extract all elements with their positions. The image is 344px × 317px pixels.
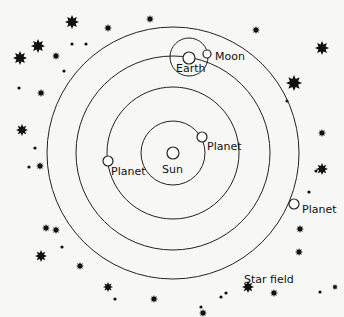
star-dot-icon xyxy=(318,290,321,293)
moon-label: Moon xyxy=(215,50,245,63)
star-icon xyxy=(37,89,45,97)
planet-label: Planet xyxy=(302,203,337,216)
star-icon xyxy=(65,15,79,29)
solar-system-diagram: Sun Earth Moon Planet Planet Planet Star… xyxy=(0,0,344,317)
star-dot-icon xyxy=(84,42,87,45)
star-dot-icon xyxy=(224,291,227,294)
star-field-label: Star field xyxy=(244,273,294,286)
star-icon xyxy=(316,163,328,175)
star-icon xyxy=(31,39,45,53)
star-icon xyxy=(16,124,28,136)
earth-label: Earth xyxy=(176,62,206,75)
star-dot-icon xyxy=(314,169,317,172)
planet-icon xyxy=(197,132,207,142)
star-icon xyxy=(76,262,84,270)
star-icon xyxy=(199,309,207,317)
star-icon xyxy=(150,295,158,303)
star-icon xyxy=(295,248,303,256)
star-icon xyxy=(146,15,154,23)
star-icon xyxy=(35,250,47,262)
diagram-canvas: Sun Earth Moon Planet Planet Planet Star… xyxy=(0,0,344,317)
star-dot-icon xyxy=(60,245,63,248)
star-dot-icon xyxy=(70,42,73,45)
planet-label: Planet xyxy=(111,165,146,178)
star-icon xyxy=(252,26,260,34)
star-icon xyxy=(42,224,50,232)
star-icon xyxy=(52,226,60,234)
moon-icon xyxy=(203,50,211,58)
star-dot-icon xyxy=(219,295,222,298)
star-icon xyxy=(104,24,112,32)
star-dot-icon xyxy=(199,305,202,308)
star-dot-icon xyxy=(62,69,65,72)
star-icon xyxy=(103,282,113,292)
star-icon xyxy=(332,284,338,290)
sun-icon xyxy=(167,147,179,159)
star-icon xyxy=(315,41,329,55)
star-icon xyxy=(36,162,44,170)
planet-icon xyxy=(289,199,299,209)
star-dot-icon xyxy=(27,165,30,168)
planet-label: Planet xyxy=(207,140,242,153)
star-icon xyxy=(52,52,60,60)
star-icon xyxy=(296,225,304,233)
star-dot-icon xyxy=(307,190,310,193)
sun-label: Sun xyxy=(162,163,183,176)
star-dot-icon xyxy=(33,146,36,149)
star-icon xyxy=(318,129,326,137)
star-icon xyxy=(13,51,27,65)
star-dot-icon xyxy=(113,297,116,300)
star-icon xyxy=(286,75,302,91)
star-dot-icon xyxy=(17,86,20,89)
star-icon xyxy=(270,289,278,297)
